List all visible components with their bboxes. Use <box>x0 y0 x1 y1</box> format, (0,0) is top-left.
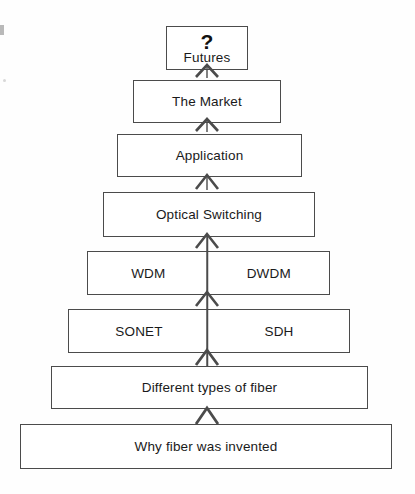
diagram-canvas: ? Futures The Market Application Optical… <box>0 0 415 494</box>
level-box-futures[interactable]: ? Futures <box>166 26 248 70</box>
level-box-the-market[interactable]: The Market <box>133 80 281 123</box>
level-box-why-fiber-was-invented[interactable]: Why fiber was invented <box>20 424 392 469</box>
futures-content: ? Futures <box>184 32 231 64</box>
level-box-optical-switching[interactable]: Optical Switching <box>103 192 315 237</box>
scan-artifact <box>0 25 4 35</box>
level-label-the-market: The Market <box>172 94 242 109</box>
connector-line-sonet-split <box>206 309 208 353</box>
level-label-futures: Futures <box>184 51 231 65</box>
level-label-sonet: SONET <box>69 310 209 352</box>
connector-line-gap-fiber-base <box>206 353 208 366</box>
level-label-wdm: WDM <box>88 252 209 294</box>
level-label-sdh: SDH <box>209 310 349 352</box>
connector-line-wdm-split <box>206 251 208 295</box>
level-box-different-types-of-fiber[interactable]: Different types of fiber <box>51 366 368 409</box>
level-box-wdm-dwdm[interactable]: WDM DWDM <box>87 251 330 295</box>
level-label-different-types-of-fiber: Different types of fiber <box>142 380 277 395</box>
level-label-dwdm: DWDM <box>209 252 330 294</box>
level-label-why-fiber-was-invented: Why fiber was invented <box>135 439 278 454</box>
level-label-optical-switching: Optical Switching <box>156 207 262 222</box>
connector-line-gap-sonet-fiber <box>206 295 208 309</box>
level-label-application: Application <box>176 148 244 163</box>
connector-line-gap-wdm-sonet <box>206 237 208 251</box>
level-box-application[interactable]: Application <box>117 134 302 177</box>
level-box-sonet-sdh[interactable]: SONET SDH <box>68 309 350 353</box>
question-mark-icon: ? <box>201 32 214 52</box>
scan-speck <box>3 79 6 82</box>
